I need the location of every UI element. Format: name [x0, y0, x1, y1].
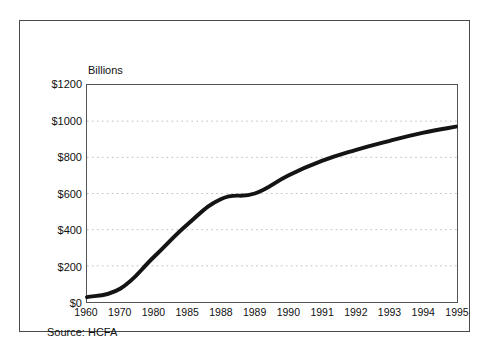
x-tick-label: 1985	[175, 306, 198, 319]
plot-area	[86, 84, 458, 303]
source-note: Source: HCFA	[47, 326, 117, 339]
y-tick-label: $200	[20, 261, 82, 272]
top-cutoff-text-strip	[0, 0, 489, 9]
x-tick-label: 1960	[74, 306, 97, 319]
data-series-layer	[87, 85, 457, 302]
y-tick-label: $800	[20, 152, 82, 163]
y-tick-label: $1000	[20, 115, 82, 126]
y-axis-tick-labels: $0$200$400$600$800$1000$1200	[20, 84, 82, 303]
x-tick-label: 1980	[142, 306, 165, 319]
figure-frame: Billions $0$200$400$600$800$1000$1200 19…	[19, 20, 470, 332]
y-tick-label: $400	[20, 225, 82, 236]
x-tick-label: 1991	[310, 306, 333, 319]
x-tick-label: 1990	[277, 306, 300, 319]
y-tick-label: $0	[20, 298, 82, 309]
y-axis-unit-label: Billions	[88, 64, 123, 76]
x-tick-label: 1992	[344, 306, 367, 319]
x-tick-label: 1989	[243, 306, 266, 319]
x-tick-label: 1988	[209, 306, 232, 319]
plot-inner	[87, 85, 457, 302]
y-tick-label: $600	[20, 188, 82, 199]
data-line-national-health-expenditures	[87, 127, 456, 298]
x-tick-label: 1993	[378, 306, 401, 319]
y-tick-label: $1200	[20, 79, 82, 90]
x-tick-label: 1995	[445, 306, 468, 319]
x-tick-label: 1970	[108, 306, 131, 319]
x-axis-tick-labels: 1960197019801985198819891990199119921993…	[86, 306, 458, 322]
x-tick-label: 1994	[412, 306, 435, 319]
